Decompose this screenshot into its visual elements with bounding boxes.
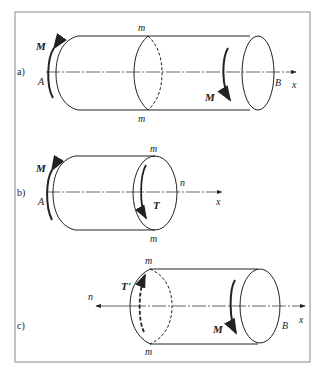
torque-arrow-icon xyxy=(140,275,145,332)
moment-label: M xyxy=(35,162,47,174)
panel-b: b) M A m m n T x xyxy=(17,143,222,244)
axis-label: x xyxy=(215,196,221,207)
axis-label: x xyxy=(291,79,297,90)
moment-label: M xyxy=(212,323,224,335)
panel-label: c) xyxy=(17,320,25,332)
moment-arrow-icon xyxy=(47,170,52,220)
axis-label: x xyxy=(298,314,304,325)
torsion-diagram: a) M A m m M B x b) M A m m n T x xyxy=(0,0,320,378)
section-label: m xyxy=(150,143,157,154)
moment-label: M xyxy=(204,91,216,103)
panel-a: a) M A m m M B x xyxy=(17,22,297,124)
moment-arrow-icon xyxy=(231,280,236,333)
normal-label: n xyxy=(88,291,93,302)
panel-c: c) n m m T' M B x xyxy=(17,255,305,357)
panel-label: a) xyxy=(17,66,25,78)
section-label: m xyxy=(150,233,157,244)
point-label: A xyxy=(37,76,45,87)
moment-arrow-icon xyxy=(48,48,54,98)
torque-label: T xyxy=(153,199,161,211)
figure-frame xyxy=(15,12,310,362)
panel-label: b) xyxy=(17,187,25,199)
point-label: B xyxy=(282,320,288,331)
normal-label: n xyxy=(180,177,185,188)
section-label: m xyxy=(138,113,145,124)
section-label: m xyxy=(145,255,152,266)
torque-arrow-icon xyxy=(141,165,146,218)
section-label: m xyxy=(145,346,152,357)
section-label: m xyxy=(138,22,145,33)
moment-arrow-icon xyxy=(223,48,230,100)
point-label: A xyxy=(37,196,45,207)
moment-label: M xyxy=(35,40,47,52)
point-label: B xyxy=(275,77,281,88)
torque-label: T' xyxy=(121,280,131,292)
